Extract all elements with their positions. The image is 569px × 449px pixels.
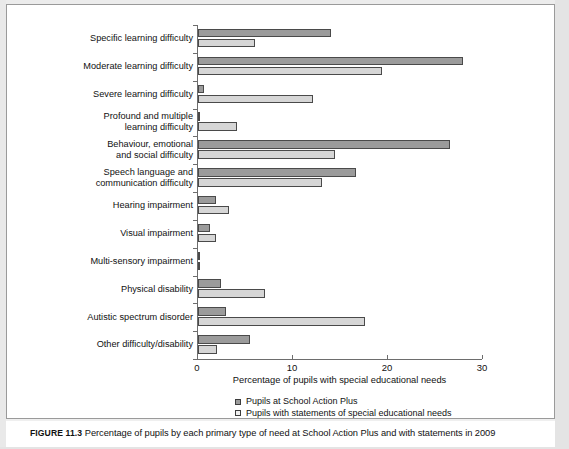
- bar: [198, 95, 313, 104]
- bar: [198, 206, 229, 215]
- y-tick: [193, 276, 197, 277]
- category-label: Multi-sensory impairment: [8, 256, 193, 268]
- bar: [198, 252, 200, 261]
- bar: [198, 317, 365, 326]
- x-axis-title: Percentage of pupils with special educat…: [197, 375, 482, 385]
- legend-swatch: [235, 399, 241, 405]
- category-label: Behaviour, emotionaland social difficult…: [8, 139, 193, 162]
- legend-item: Pupils with statements of special educat…: [235, 408, 452, 420]
- bar: [198, 29, 331, 38]
- x-tick-label: 20: [382, 362, 393, 373]
- bar: [198, 178, 322, 187]
- x-tick: [387, 355, 388, 359]
- bar: [198, 262, 200, 271]
- y-tick: [193, 164, 197, 165]
- bar: [198, 168, 356, 177]
- y-tick: [193, 25, 197, 26]
- bar: [198, 112, 200, 121]
- bar: [198, 335, 250, 344]
- bar: [198, 122, 237, 131]
- category-label: Speech language andcommunication difficu…: [8, 167, 193, 190]
- bar: [198, 85, 204, 94]
- category-label: Visual impairment: [8, 228, 193, 240]
- y-tick: [193, 359, 197, 360]
- y-tick: [193, 331, 197, 332]
- figure-caption: FIGURE 11.3 Percentage of pupils by each…: [30, 427, 550, 439]
- page-edge-right: [555, 0, 569, 449]
- figure-number: FIGURE 11.3: [30, 428, 82, 438]
- chart-legend: Pupils at School Action PlusPupils with …: [235, 396, 452, 419]
- bar: [198, 345, 217, 354]
- category-label: Severe learning difficulty: [8, 89, 193, 101]
- bar: [198, 307, 226, 316]
- y-tick: [193, 109, 197, 110]
- x-tick: [197, 355, 198, 359]
- bar: [198, 289, 265, 298]
- figure-page: 0102030 Specific learning difficultyMode…: [0, 0, 569, 449]
- category-label: Autistic spectrum disorder: [8, 312, 193, 324]
- y-tick: [193, 303, 197, 304]
- bar: [198, 150, 335, 159]
- legend-swatch: [235, 410, 241, 416]
- bar: [198, 57, 463, 66]
- category-label: Profound and multiplelearning difficulty: [8, 111, 193, 134]
- category-label: Specific learning difficulty: [8, 33, 193, 45]
- x-tick-label: 0: [194, 362, 199, 373]
- y-tick: [193, 136, 197, 137]
- x-axis-line: [197, 359, 482, 360]
- bar: [198, 196, 216, 205]
- category-label: Other difficulty/disability: [8, 339, 193, 351]
- y-tick: [193, 220, 197, 221]
- category-label: Physical disability: [8, 284, 193, 296]
- category-label: Moderate learning difficulty: [8, 61, 193, 73]
- bar: [198, 234, 216, 243]
- x-tick-label: 30: [477, 362, 488, 373]
- chart-frame: 0102030 Specific learning difficultyMode…: [6, 4, 555, 419]
- bar: [198, 39, 255, 48]
- y-tick: [193, 248, 197, 249]
- legend-label: Pupils with statements of special educat…: [246, 408, 452, 420]
- x-tick-label: 10: [287, 362, 298, 373]
- legend-label: Pupils at School Action Plus: [246, 396, 358, 408]
- bar: [198, 224, 210, 233]
- bar-chart: 0102030 Specific learning difficultyMode…: [7, 5, 556, 420]
- bar: [198, 279, 221, 288]
- y-tick: [193, 192, 197, 193]
- bar: [198, 140, 450, 149]
- x-tick: [292, 355, 293, 359]
- y-tick: [193, 53, 197, 54]
- category-label: Hearing impairment: [8, 200, 193, 212]
- legend-item: Pupils at School Action Plus: [235, 396, 452, 408]
- x-tick: [482, 355, 483, 359]
- bar: [198, 67, 382, 76]
- y-tick: [193, 81, 197, 82]
- figure-caption-text: Percentage of pupils by each primary typ…: [85, 428, 496, 438]
